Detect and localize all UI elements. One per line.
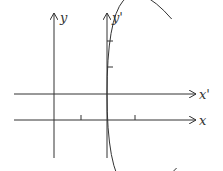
x-axis-label: x <box>199 113 207 128</box>
x-prime-axis-label: x' <box>199 87 210 102</box>
parabola-curve <box>107 0 177 171</box>
y-axis-label: y <box>59 10 68 25</box>
axes-diagram: y y' x' x <box>0 0 223 171</box>
